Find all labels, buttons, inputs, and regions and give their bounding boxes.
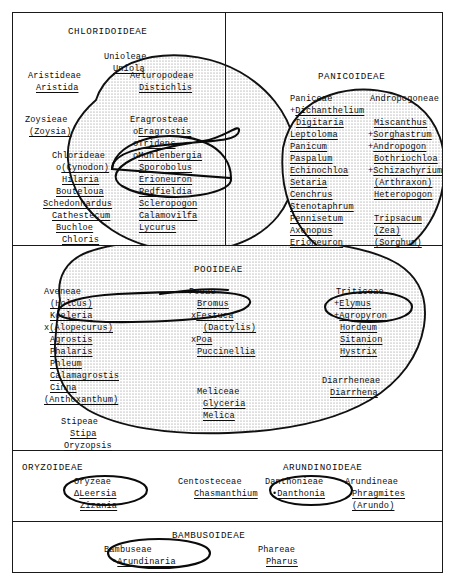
genus-zizania: Zizania	[80, 502, 117, 511]
genus-phleum: Phleum	[50, 360, 82, 369]
genus-sorghum: (Sorghum)	[374, 239, 422, 248]
genus-andropogon: Andropogon	[373, 142, 426, 152]
section-heading-pooideae: POOIDEAE	[194, 265, 243, 274]
genus-poa-row: xPoa	[191, 336, 212, 345]
genus-erioneuron-chlorid: Erioneuron	[139, 176, 192, 185]
genus-dactylis: (Dactylis)	[203, 324, 256, 333]
genus-elymus-row: +Elymus	[334, 300, 371, 309]
genus-bouteloua: Bouteloua	[56, 188, 104, 197]
genus-axonopus: Axonopus	[290, 227, 332, 236]
genus-festuca: Festuca	[196, 311, 233, 321]
genus-lycurus: Lycurus	[139, 224, 176, 233]
genus-dichanthelium: Dichanthelium	[295, 106, 364, 116]
genus-leersia: Leersia	[79, 489, 116, 499]
tribe-eragrosteae: Eragrosteae	[130, 116, 188, 125]
genus-leptoloma: Leptoloma	[290, 131, 338, 140]
genus-miscanthus: Miscanthus	[374, 119, 427, 128]
tribe-meliceae: Meliceae	[197, 388, 239, 397]
tribe-stipeae: Stipeae	[61, 418, 98, 427]
tribe-paniceae: Paniceae	[290, 95, 332, 104]
genus-cinna: Cinna	[50, 384, 77, 393]
genus-heteropogon: Heteropogon	[374, 191, 432, 200]
genus-buchloe: Buchloe	[56, 224, 93, 233]
genus-dichanthelium-row: +Dichanthelium	[290, 107, 364, 116]
genus-anthoxanthum: (Anthoxanthum)	[44, 396, 118, 405]
genus-agrostis: Agrostis	[50, 336, 92, 345]
genus-cynodon-row: o(Cynodon)	[56, 164, 109, 173]
section-heading-oryzoideae: ORYZOIDEAE	[22, 463, 83, 472]
genus-festuca-row: xFestuca	[191, 312, 233, 321]
section-heading-arundinoideae: ARUNDINOIDEAE	[283, 463, 362, 472]
genus-alopecurus-row: x(Alopecurus)	[44, 324, 113, 333]
genus-oryzopsis: Oryzopsis	[64, 442, 112, 451]
genus-setaria: Setaria	[290, 179, 327, 188]
genus-danthonia-row: •Danthonia	[272, 490, 325, 499]
genus-hilaria: Hilaria	[62, 176, 99, 185]
genus-aristida: Aristida	[36, 84, 78, 93]
genus-hordeum: Hordeum	[340, 324, 377, 333]
genus-muhlenbergia-row: oMuhlenbergia	[133, 152, 202, 161]
tribe-danthonieae: Danthonieae	[265, 478, 323, 487]
genus-panicum: Panicum	[290, 143, 327, 152]
tribe-oryzeae: Oryzeae	[74, 478, 111, 487]
section-heading-chloridoideae: CHLORIDOIDEAE	[68, 27, 147, 36]
tribe-poeae: Poeae	[189, 288, 216, 297]
genus-zea: (Zea)	[374, 227, 401, 236]
genus-echinochloa: Echinochloa	[290, 167, 348, 176]
genus-phragmites: Phragmites	[352, 490, 405, 499]
genus-stipa: Stipa	[70, 430, 97, 439]
genus-arundinaria-row: •Arundinaria	[112, 558, 176, 567]
genus-elymus: Elymus	[339, 299, 371, 309]
genus-sorghastrum-row: +Sorghastrum	[368, 131, 432, 140]
genus-andropogon-row: +Andropogon	[368, 143, 426, 152]
tribe-unioleae: Unioleae	[104, 53, 146, 62]
genus-pennisetum: Pennisetum	[290, 215, 343, 224]
genus-cathestecum: Cathestecum	[52, 212, 110, 221]
genus-puccinellia: Puccinellia	[197, 348, 255, 357]
genus-tridens-row: oTridens	[133, 140, 175, 149]
genus-sitanion: Sitanion	[340, 336, 382, 345]
genus-muhlenbergia: Muhlenbergia	[138, 151, 202, 161]
tribe-aeluropodeae: Aeluropodeae	[130, 72, 194, 81]
tribe-centosteceae: Centosteceae	[178, 478, 242, 487]
genus-redfieldia: Redfieldia	[139, 188, 192, 197]
genus-sporobolus: Sporobolus	[139, 164, 192, 173]
genus-hystrix: Hystrix	[340, 348, 377, 357]
tribe-andropogoneae: Andropogoneae	[370, 95, 439, 104]
genus-danthonia: Danthonia	[277, 489, 325, 499]
tribe-arundineae: Arundineae	[345, 478, 398, 487]
genus-agropyron: Agropyron	[339, 311, 387, 321]
genus-pharus: Pharus	[266, 558, 298, 567]
tribe-zoysieae: Zoysieae	[25, 116, 67, 125]
genus-chasmanthium: Chasmanthium	[194, 490, 258, 499]
genus-chloris: Chloris	[62, 236, 99, 245]
genus-holcus: (Holcus)	[50, 300, 92, 309]
label-layer: CHLORIDOIDEAE Unioleae Uniola Aristideae…	[0, 0, 455, 585]
genus-arthraxon: (Arthraxon)	[374, 179, 432, 188]
genus-cenchrus: Cenchrus	[290, 191, 332, 200]
genus-schizachyrium-row: +Schizachyrium	[368, 167, 442, 176]
diagram-root: CHLORIDOIDEAE Unioleae Uniola Aristideae…	[0, 0, 455, 585]
genus-poa: Poa	[196, 335, 212, 345]
genus-sorghastrum: Sorghastrum	[373, 130, 431, 140]
genus-distichlis: Distichlis	[139, 84, 192, 93]
genus-scleropogon: Scleropogon	[139, 200, 197, 209]
genus-schedonnardus: Schedonnardus	[43, 200, 112, 209]
genus-phalaris: Phalaris	[50, 348, 92, 357]
section-heading-bambusoideae: BAMBUSOIDEAE	[172, 531, 245, 540]
genus-digitaria: Digitaria	[296, 119, 344, 128]
tribe-aveneae: Aveneae	[44, 288, 81, 297]
genus-bothriochloa: Bothriochloa	[374, 155, 438, 164]
genus-erioneuron-panic: Erioneuron	[290, 239, 343, 248]
genus-stenotaphrum: Stenotaphrum	[290, 203, 354, 212]
genus-zoysia: (Zoysia)	[29, 128, 71, 137]
genus-leersia-row: ΔLeersia	[74, 490, 116, 499]
genus-eragrostis: Eragrostis	[138, 127, 191, 137]
tribe-chlorideae: Chlorideae	[52, 152, 105, 161]
genus-arundo: (Arundo)	[352, 502, 394, 511]
genus-glyceria: Glyceria	[203, 400, 245, 409]
genus-koeleria: Koeleria	[50, 312, 92, 321]
genus-calamovilfa: Calamovilfa	[139, 212, 197, 221]
genus-diarrhena: Diarrhena	[330, 389, 378, 398]
genus-melica: Melica	[203, 412, 235, 421]
